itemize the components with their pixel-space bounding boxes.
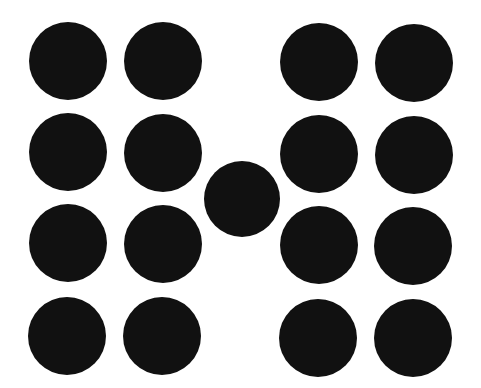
dot-r4c2 bbox=[123, 297, 201, 375]
dot-r2c3 bbox=[280, 115, 358, 193]
dot-r4c4 bbox=[374, 299, 452, 377]
dot-r1c2 bbox=[124, 22, 202, 100]
dot-r3c1 bbox=[29, 204, 107, 282]
dot-pattern-canvas bbox=[0, 0, 481, 388]
dot-r3c3 bbox=[280, 206, 358, 284]
dot-r1c3 bbox=[280, 23, 358, 101]
dot-r2c4 bbox=[375, 116, 453, 194]
dot-r3c2 bbox=[124, 205, 202, 283]
dot-r1c1 bbox=[29, 22, 107, 100]
dot-r1c4 bbox=[375, 24, 453, 102]
dot-r2c2 bbox=[124, 114, 202, 192]
dot-center bbox=[204, 161, 280, 237]
dot-r4c3 bbox=[279, 299, 357, 377]
dot-r2c1 bbox=[29, 113, 107, 191]
dot-r3c4 bbox=[374, 207, 452, 285]
dot-r4c1 bbox=[28, 297, 106, 375]
